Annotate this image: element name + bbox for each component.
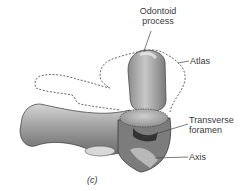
articular-facet [120, 109, 168, 127]
label-transverse-foramen: Transverse foramen [189, 115, 234, 135]
label-odontoid-line1: Odontoid [132, 6, 184, 16]
leader-odontoid [144, 31, 151, 51]
leader-atlas [178, 61, 189, 63]
label-axis: Axis [189, 152, 206, 162]
process-cut-end [85, 146, 115, 156]
figure-caption: (c) [87, 175, 98, 185]
label-odontoid-line2: process [132, 16, 184, 26]
vertebrae-illustration: Odontoid process Atlas Transverse forame… [0, 0, 245, 191]
odontoid-peg [128, 50, 166, 112]
label-transverse-line2: foramen [189, 125, 234, 135]
bone-drawing [0, 0, 245, 191]
label-atlas: Atlas [190, 56, 210, 66]
label-transverse-line1: Transverse [189, 115, 234, 125]
label-odontoid-process: Odontoid process [132, 6, 184, 26]
